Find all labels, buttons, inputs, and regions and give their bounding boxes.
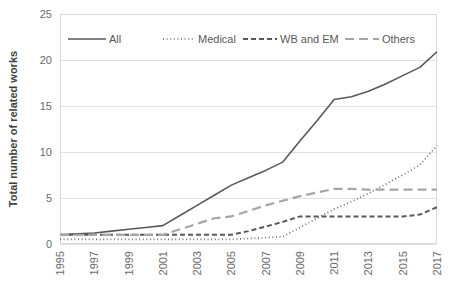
x-tick-label: 1995	[54, 251, 66, 275]
x-tick-label: 2013	[362, 251, 374, 275]
x-tick-label: 2011	[328, 251, 340, 275]
x-tick-label: 1997	[88, 251, 100, 275]
x-tick-label: 2017	[431, 251, 443, 275]
y-tick-label: 15	[40, 100, 52, 112]
y-tick-label: 0	[46, 238, 52, 250]
legend-label: All	[109, 33, 121, 45]
legend-label: Medical	[198, 33, 236, 45]
x-tick-label: 1999	[123, 251, 135, 275]
x-tick-label: 2005	[225, 251, 237, 275]
x-axis-tick-labels: 1995199719992001200320052007200920112013…	[54, 251, 443, 275]
x-tick-label: 2009	[294, 251, 306, 275]
legend-label: Others	[382, 33, 416, 45]
line-chart: 0510152025 19951997199920012003200520072…	[0, 0, 452, 285]
y-tick-label: 5	[46, 192, 52, 204]
y-tick-label: 25	[40, 8, 52, 20]
y-tick-label: 10	[40, 146, 52, 158]
y-axis-tick-labels: 0510152025	[40, 8, 52, 250]
x-tick-label: 2015	[397, 251, 409, 275]
y-axis-title: Total number of related works	[7, 51, 19, 207]
x-tick-label: 2001	[157, 251, 169, 275]
chart-container: 0510152025 19951997199920012003200520072…	[0, 0, 452, 285]
y-tick-label: 20	[40, 54, 52, 66]
x-tick-label: 2007	[260, 251, 272, 275]
x-tick-label: 2003	[191, 251, 203, 275]
legend-label: WB and EM	[280, 33, 339, 45]
plot-background	[60, 14, 437, 244]
